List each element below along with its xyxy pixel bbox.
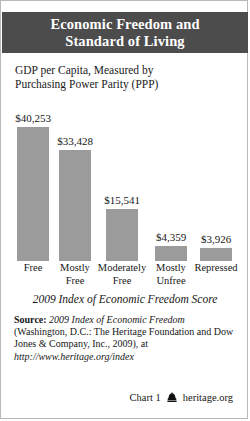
- chart-subtitle: GDP per Capita, Measured by Purchasing P…: [15, 63, 230, 91]
- chart-header-band: Economic Freedom and Standard of Living: [2, 12, 248, 53]
- category-label-line: Mostly: [146, 262, 196, 275]
- bar-value-label: $3,926: [194, 233, 238, 245]
- heritage-bell-icon: [167, 392, 177, 403]
- bar-rect: [106, 209, 138, 261]
- category-label-repressed: Repressed: [191, 262, 241, 275]
- x-axis-title: 2009 Index of Economic Freedom Score: [1, 293, 249, 305]
- page-title-line-1: Economic Freedom and: [50, 16, 199, 33]
- bar-value-label: $15,541: [100, 194, 144, 206]
- heritage-site-label: heritage.org: [183, 392, 233, 403]
- bar-rect: [155, 246, 187, 261]
- bar-value-label: $4,359: [149, 231, 193, 243]
- chart-card: Economic Freedom and Standard of Living …: [0, 0, 248, 419]
- category-label-line: Mostly: [50, 262, 100, 275]
- category-label-line: Free: [50, 275, 100, 288]
- bar-value-label: $33,428: [53, 135, 97, 147]
- chart-subtitle-line-2: Purchasing Power Parity (PPP): [15, 77, 230, 91]
- bar-column: $4,359: [149, 96, 193, 261]
- bar-rect: [17, 127, 49, 261]
- source-label: Source:: [14, 314, 47, 325]
- category-label-mostly-free: Mostly Free: [50, 262, 100, 287]
- source-body-text: (Washington, D.C.: The Heritage Foundati…: [14, 326, 233, 349]
- category-label-moderately-free: Moderately Free: [97, 262, 147, 287]
- x-axis-category-labels: Free Mostly Free Moderately Free Mostly …: [1, 262, 249, 292]
- chart-number-label: Chart 1: [130, 392, 161, 403]
- source-note: Source: 2009 Index of Economic Freedom (…: [14, 314, 236, 363]
- bar-rect: [200, 248, 232, 261]
- bar-column: $3,926: [194, 96, 238, 261]
- category-label-line: Unfree: [146, 275, 196, 288]
- bar-column: $40,253: [11, 96, 55, 261]
- category-label-line: Free: [97, 275, 147, 288]
- bar-column: $15,541: [100, 96, 144, 261]
- bar-chart-plot-area: $40,253 $33,428 $15,541 $4,359 $3,926: [1, 96, 249, 261]
- category-label-mostly-unfree: Mostly Unfree: [146, 262, 196, 287]
- bar-column: $33,428: [53, 96, 97, 261]
- category-label-line: Repressed: [191, 262, 241, 275]
- chart-subtitle-line-1: GDP per Capita, Measured by: [15, 63, 230, 77]
- source-italic-title: 2009 Index of Economic Freedom: [49, 314, 185, 325]
- source-url: http://www.heritage.org/index: [14, 351, 134, 362]
- page-title-line-2: Standard of Living: [65, 33, 184, 50]
- chart-footer: Chart 1 heritage.org: [130, 392, 233, 403]
- bar-rect: [59, 150, 91, 261]
- bar-value-label: $40,253: [11, 112, 55, 124]
- category-label-line: Moderately: [97, 262, 147, 275]
